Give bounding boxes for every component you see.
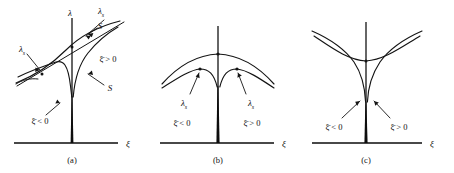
lambda-s-left-label-a: λs (18, 44, 26, 56)
xi-negative-label-a: ξ̄ < 0 (31, 116, 48, 126)
branch-point-center-a (71, 46, 74, 49)
central-spike-b (216, 86, 219, 143)
arrow-s-lower-a (88, 74, 104, 85)
central-spike-c (364, 102, 367, 143)
xi-positive-label-b: ξ̄ > 0 (243, 118, 260, 128)
xi-negative-label-c: ξ̄ < 0 (325, 122, 342, 132)
lambda-s-left-sub-a: s (23, 50, 26, 56)
inner-curve-left-b (162, 69, 217, 88)
arrowhead-xi-neg-a (55, 99, 60, 103)
panel-c: ξ̄ < 0 ξ̄ > 0 ξ (c) (304, 0, 454, 173)
panel-tag-a: (a) (67, 155, 77, 165)
crossing-point-c (365, 60, 368, 63)
lambda-s-right-sub-b: s (252, 104, 255, 110)
inner-curve-right-b (220, 69, 274, 88)
branch-point-left-a (41, 73, 44, 76)
xi-axis-label-c: ξ (430, 139, 434, 149)
lambda-s-upper-sub-a: s (102, 12, 105, 18)
xi-positive-label-c: ξ̄ > 0 (390, 122, 407, 132)
xi-negative-label-b: ξ̄ < 0 (173, 118, 190, 128)
s-upper-label-a: S (98, 21, 103, 31)
xi-positive-label-a: ξ̄ > 0 (99, 54, 116, 64)
panel-a: λ λs λs S S ξ̄ < 0 ξ̄ > 0 ξ (a) (0, 0, 152, 173)
arrow-xi-neg-a (46, 103, 60, 115)
lambda-s-left-label-b: λs (180, 98, 188, 110)
outer-branch-right-c (367, 31, 422, 102)
xi-axis-label-b: ξ (282, 139, 286, 149)
panel-tag-b: (b) (213, 155, 223, 165)
lambda-s-left-sub-b: s (185, 104, 188, 110)
figure-root: λ λs λs S S ξ̄ < 0 ξ̄ > 0 ξ (a) (0, 0, 454, 173)
lambda-s-point-right-b (235, 67, 238, 70)
arrow-lambda-s-left-a (27, 54, 40, 70)
arrowhead-lambda-s-left-b (196, 73, 200, 78)
panel-b: λs λs ξ̄ < 0 ξ̄ > 0 ξ (b) (152, 0, 304, 173)
xi-axis-label-a: ξ (126, 139, 130, 149)
outer-branch-left-c (312, 31, 366, 102)
lambda-s-right-label-b: λs (247, 98, 255, 110)
lambda-s-upper-label-a: λs (97, 6, 105, 18)
lambda-s-point-left-b (198, 67, 201, 70)
apex-point-b (216, 52, 219, 55)
central-spike-a (71, 96, 74, 143)
panel-tag-c: (c) (361, 155, 371, 165)
lambda-axis-label-a: λ (67, 8, 72, 18)
arrowhead-s-upper-a (86, 36, 91, 40)
s-lower-label-a: S (108, 83, 113, 93)
